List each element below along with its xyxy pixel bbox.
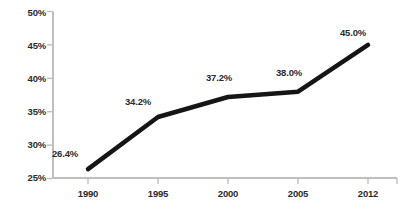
data-point-label: 26.4% xyxy=(42,148,88,159)
data-point-label: 45.0% xyxy=(330,27,376,38)
data-point-label: 38.0% xyxy=(266,67,312,78)
x-axis-tick-label: 1995 xyxy=(135,188,181,199)
line-chart: 50% 45% 40% 35% 30% 25% 26.4% 34.2% 37.2… xyxy=(0,0,412,218)
x-axis-tick-label: 2012 xyxy=(345,188,391,199)
data-series-line xyxy=(88,45,368,169)
x-axis-tick-label: 1990 xyxy=(65,188,111,199)
x-axis-tick-label: 2005 xyxy=(275,188,321,199)
data-point-label: 34.2% xyxy=(115,96,161,107)
x-axis-tick-label: 2000 xyxy=(205,188,251,199)
data-point-label: 37.2% xyxy=(196,72,242,83)
